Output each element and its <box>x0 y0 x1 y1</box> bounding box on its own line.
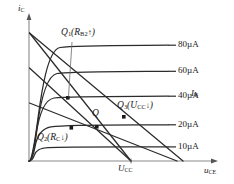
curve-label-80uA: 80µA <box>178 40 199 49</box>
q1-param-sub: B2 <box>80 30 88 37</box>
curve-label-20uA: 20µA <box>178 120 199 129</box>
q1-annotation: Q1(RB2↑) <box>61 28 95 38</box>
q1-close-paren: ) <box>92 27 95 37</box>
y-axis-label-sub: C <box>21 7 25 13</box>
q1-leader <box>69 42 73 97</box>
q3-marker <box>122 115 126 119</box>
curve-label-connectors <box>168 45 176 147</box>
x-axis-label: uCE <box>204 166 216 175</box>
ucc-tick-label-sub: CC <box>125 167 133 173</box>
output-characteristic-figure: iC uCE UCC IB 80µA 60µA 40µA 20µA 10µA Q… <box>0 0 234 184</box>
x-axis-arrowhead <box>211 159 218 164</box>
curve-label-40uA: 40µA <box>178 91 199 100</box>
q3-symbol: Q <box>117 100 124 110</box>
q2-annotation: Q2(RC↓) <box>37 133 68 143</box>
q1-marker <box>66 96 70 100</box>
leader-lines-group <box>69 42 73 97</box>
q-marker <box>95 125 99 129</box>
q1-symbol: Q <box>61 27 68 37</box>
q3-param-sub: CC <box>137 103 146 110</box>
curve-label-60uA: 60µA <box>178 66 199 75</box>
q2-close-paren: ) <box>64 132 67 142</box>
curve-label-10uA: 10µA <box>178 142 199 151</box>
q3-annotation: Q3(UCC↓) <box>117 101 153 111</box>
q3-close-paren: ) <box>150 100 153 110</box>
x-axis-label-sub: CE <box>209 169 217 175</box>
q2-marker <box>70 126 74 130</box>
q-annotation: Q <box>92 109 99 119</box>
q2-symbol: Q <box>37 132 44 142</box>
y-axis-arrowhead <box>27 13 32 20</box>
ucc-tick-label: UCC <box>118 164 133 173</box>
y-axis-label: iC <box>18 4 25 13</box>
